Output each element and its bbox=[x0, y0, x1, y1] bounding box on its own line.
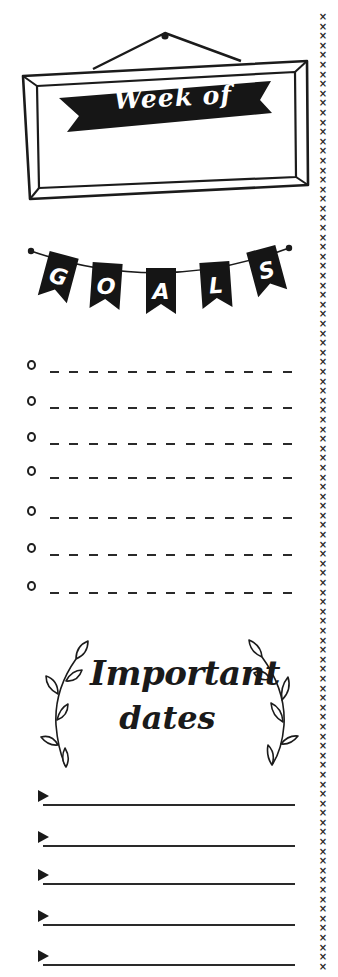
triangle-bullet-icon bbox=[38, 910, 49, 922]
triangle-bullet-icon bbox=[38, 869, 49, 881]
write-line[interactable] bbox=[43, 924, 295, 926]
important-dates-subtitle: dates bbox=[90, 700, 245, 736]
cross-stitch-icon: × bbox=[319, 962, 327, 972]
date-item[interactable] bbox=[38, 950, 298, 968]
date-item[interactable] bbox=[38, 790, 298, 808]
cross-stitch-border: ××××××××××××××××××××××××××××××××××××××××… bbox=[316, 12, 330, 971]
write-line[interactable] bbox=[43, 883, 295, 885]
write-line[interactable] bbox=[43, 845, 295, 847]
date-item[interactable] bbox=[38, 869, 298, 887]
write-line[interactable] bbox=[43, 804, 295, 806]
write-line[interactable] bbox=[43, 964, 295, 966]
triangle-bullet-icon bbox=[38, 950, 49, 962]
important-dates-title: Important bbox=[90, 655, 245, 691]
date-item[interactable] bbox=[38, 831, 298, 849]
triangle-bullet-icon bbox=[38, 790, 49, 802]
triangle-bullet-icon bbox=[38, 831, 49, 843]
date-item[interactable] bbox=[38, 910, 298, 928]
